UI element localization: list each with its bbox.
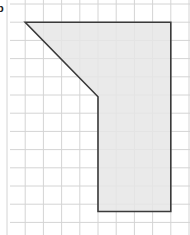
grid-figure	[0, 0, 190, 235]
shaded-polygon	[25, 22, 171, 211]
